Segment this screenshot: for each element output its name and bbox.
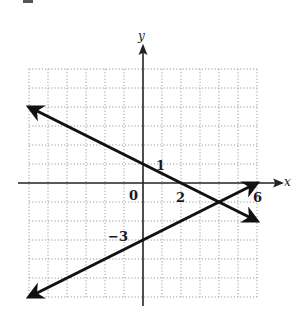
axes (18, 46, 282, 306)
y-axis-label: y (138, 30, 145, 42)
y-intercept-neg3-label: −3 (108, 230, 128, 243)
x-axis-label: x (284, 176, 291, 188)
coordinate-plane (0, 0, 305, 322)
x-intercept-2-label: 2 (176, 191, 185, 204)
x-intercept-6-label: 6 (253, 191, 262, 204)
origin-label: 0 (129, 189, 138, 202)
y-intercept-1-label: 1 (156, 159, 165, 172)
